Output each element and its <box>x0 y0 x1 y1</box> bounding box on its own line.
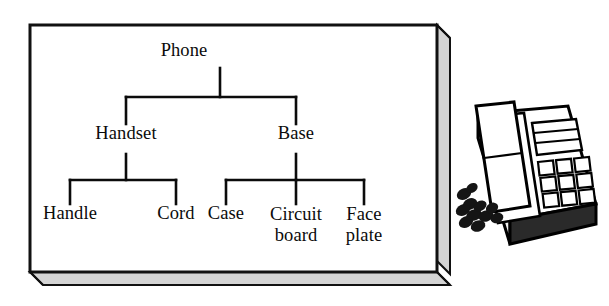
phone-key-6 <box>576 173 593 188</box>
figure-root: Phone Handset Base Handle Cord Case Circ… <box>0 0 609 306</box>
tree-node-case[interactable]: Case <box>189 204 263 224</box>
tree-node-handset[interactable]: Handset <box>71 124 181 144</box>
telephone-drawing <box>452 96 602 261</box>
phone-key-9 <box>579 189 596 204</box>
phone-key-3 <box>574 157 591 172</box>
tree-node-phone[interactable]: Phone <box>147 41 221 61</box>
phone-display-panel <box>532 119 582 155</box>
phone-keypad <box>538 157 595 208</box>
tree-node-circuit-board-line2: board <box>253 225 339 246</box>
tree-node-face-plate-line2: plate <box>328 225 400 246</box>
phone-key-1 <box>538 161 555 176</box>
tree-node-circuit-board-line1: Circuit <box>253 204 339 225</box>
phone-key-7 <box>543 193 560 208</box>
tree-node-face-plate-line1: Face <box>328 204 400 225</box>
tree-node-face-plate[interactable]: Face plate <box>328 204 400 245</box>
phone-key-5 <box>558 175 575 190</box>
phone-key-4 <box>540 177 557 192</box>
tree-node-circuit-board[interactable]: Circuit board <box>253 204 339 245</box>
tree-node-base[interactable]: Base <box>251 124 341 144</box>
tree-node-handle[interactable]: Handle <box>22 204 118 224</box>
phone-key-8 <box>561 191 578 206</box>
desk-telephone-illustration <box>452 96 602 261</box>
phone-key-2 <box>556 159 573 174</box>
